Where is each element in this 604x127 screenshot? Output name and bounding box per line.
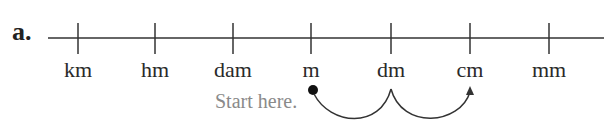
unit-label-km: km — [64, 57, 92, 83]
unit-label-dam: dam — [214, 57, 252, 83]
arc-dm-to-cm — [391, 89, 470, 118]
unit-label-hm: hm — [141, 57, 169, 83]
unit-label-cm: cm — [457, 57, 484, 83]
arrowhead-icon — [466, 86, 474, 95]
unit-label-mm: mm — [532, 57, 566, 83]
start-here-label: Start here. — [215, 90, 297, 113]
start-dot — [308, 85, 318, 95]
arc-m-to-dm — [314, 89, 391, 119]
unit-label-m: m — [302, 57, 319, 83]
unit-label-dm: dm — [377, 57, 405, 83]
